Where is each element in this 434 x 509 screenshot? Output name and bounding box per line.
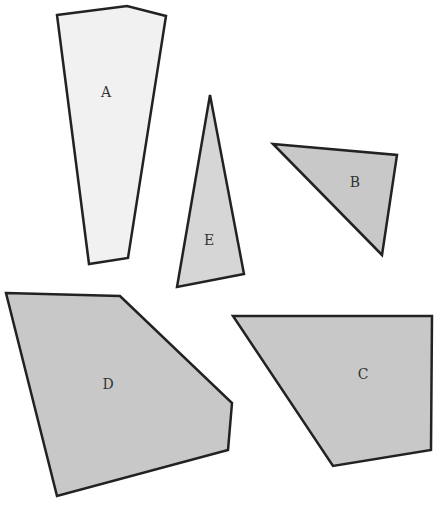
shape-c-label: C — [358, 366, 369, 382]
shape-d: D — [6, 293, 232, 496]
shape-b: B — [273, 144, 397, 255]
shape-a: A — [57, 6, 166, 264]
shape-e: E — [177, 95, 244, 287]
shape-c: C — [233, 316, 432, 466]
shape-d-label: D — [102, 376, 113, 392]
shape-b-label: B — [350, 174, 360, 190]
shape-e-label: E — [204, 232, 214, 248]
shapes-diagram: A E B D C — [0, 0, 434, 509]
shape-a-label: A — [100, 84, 112, 100]
